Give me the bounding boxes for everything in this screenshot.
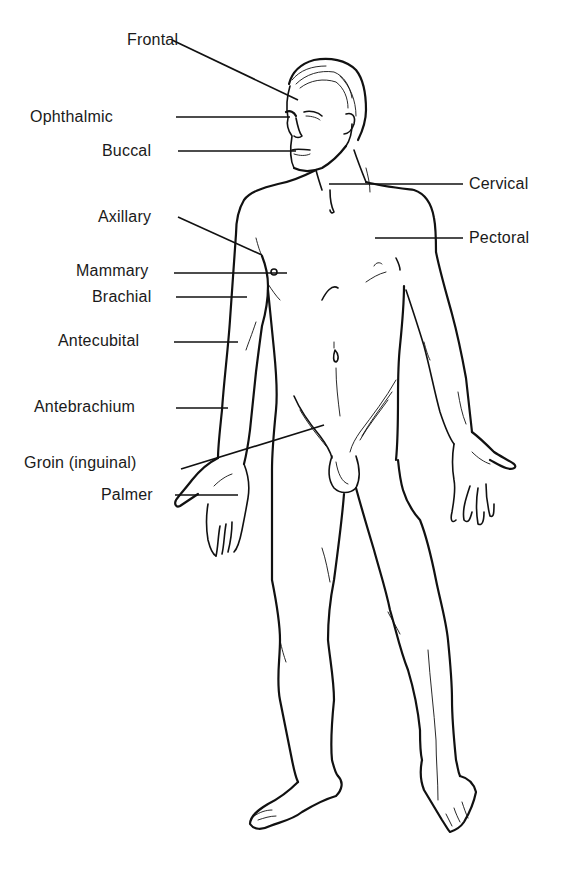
label-axillary: Axillary bbox=[98, 209, 151, 225]
label-ophthalmic: Ophthalmic bbox=[30, 109, 113, 125]
label-cervical: Cervical bbox=[469, 176, 528, 192]
right-arm-drawing bbox=[406, 252, 472, 444]
label-brachial: Brachial bbox=[92, 289, 151, 305]
label-frontal: Frontal bbox=[127, 32, 178, 48]
label-antecubital: Antecubital bbox=[58, 333, 139, 349]
label-pectoral: Pectoral bbox=[469, 230, 529, 246]
label-groin-inguinal: Groin (inguinal) bbox=[24, 455, 137, 471]
label-mammary: Mammary bbox=[76, 263, 149, 279]
label-palmer: Palmer bbox=[101, 487, 153, 503]
right-hand-drawing bbox=[451, 432, 515, 525]
legs-drawing bbox=[250, 460, 476, 832]
leader-line-axillary bbox=[178, 217, 262, 255]
human-figure-illustration bbox=[0, 0, 570, 871]
leader-lines bbox=[172, 40, 463, 495]
head-drawing bbox=[286, 59, 366, 171]
label-buccal: Buccal bbox=[102, 143, 151, 159]
leader-line-groin bbox=[181, 425, 324, 469]
left-arm-drawing bbox=[218, 234, 280, 464]
trunk-drawing bbox=[268, 258, 404, 580]
leader-line-frontal bbox=[172, 40, 298, 100]
torso-drawing bbox=[236, 150, 436, 252]
left-hand-drawing bbox=[175, 458, 249, 556]
label-antebrachium: Antebrachium bbox=[34, 399, 135, 415]
anatomy-diagram: Frontal Ophthalmic Buccal Cervical Pecto… bbox=[0, 0, 570, 871]
